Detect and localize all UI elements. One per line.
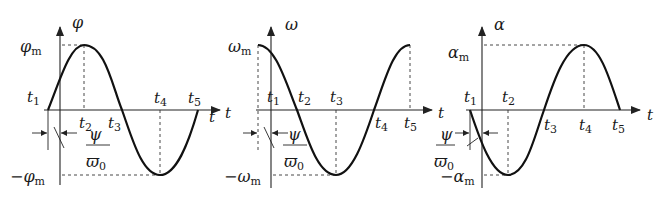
y-axis-label: ω <box>285 15 298 34</box>
t4-label: t4 <box>579 116 592 136</box>
t2-label: t2 <box>502 88 515 108</box>
phase-numerator: ψ <box>288 125 301 144</box>
max-label: ωm <box>228 37 252 58</box>
t5-label: t5 <box>612 116 625 136</box>
x-axis-label: t <box>438 104 445 122</box>
t1-label: t1 <box>464 88 477 108</box>
figure: φ t φm −φm t1 t2 t3 t4 t5 ψ ϖ0 ω t t ωm … <box>0 0 666 202</box>
t2-label: t2 <box>298 88 311 108</box>
t1-label: t1 <box>27 88 40 108</box>
t-label-left: t <box>225 104 232 122</box>
phase-denominator: ϖ0 <box>434 152 454 173</box>
y-axis-label: φ <box>72 13 84 32</box>
min-label: −ωm <box>224 167 261 188</box>
max-label: αm <box>448 43 470 64</box>
t4-label: t4 <box>375 114 388 134</box>
t3-label: t3 <box>330 88 343 108</box>
t3-label: t3 <box>108 114 121 134</box>
t5-label: t5 <box>404 114 417 134</box>
t3-label: t3 <box>544 116 557 136</box>
phase-numerator: ψ <box>89 125 102 144</box>
t5-label: t5 <box>188 89 201 109</box>
max-label: φm <box>20 37 42 58</box>
y-axis-label: α <box>494 15 505 34</box>
x-axis-label: t <box>647 106 654 124</box>
min-label: −φm <box>10 167 46 188</box>
t1-label: t1 <box>267 88 280 108</box>
panel-angular-acceleration: α t αm −αm t1 t2 t3 t4 t5 ψ ϖ0 <box>434 15 654 188</box>
panel-angular-velocity: ω t t ωm −ωm t1 t2 t3 t4 t5 ψ ϖ0 <box>224 15 445 188</box>
phase-numerator: ψ <box>440 125 453 144</box>
phase-denominator: ϖ0 <box>284 152 304 173</box>
x-axis-label: t <box>209 108 216 126</box>
t4-label: t4 <box>154 89 167 109</box>
phase-denominator: ϖ0 <box>86 152 106 173</box>
panel-angle: φ t φm −φm t1 t2 t3 t4 t5 ψ ϖ0 <box>10 13 220 188</box>
